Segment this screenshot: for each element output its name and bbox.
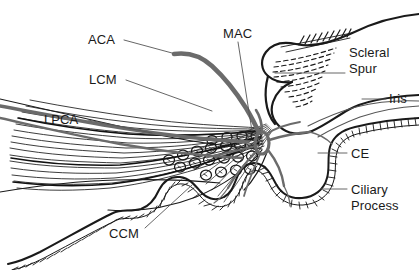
anatomy-figure: ACA LCM LPCA MAC Scleral Spur Iris CE Ci… xyxy=(0,0,419,270)
label-lpca: LPCA xyxy=(44,112,78,127)
label-mac: MAC xyxy=(223,26,252,41)
label-ce: CE xyxy=(351,146,369,161)
label-iris: Iris xyxy=(389,91,407,106)
label-aca: ACA xyxy=(88,32,115,47)
label-ciliary-process-line2: Process xyxy=(351,198,399,213)
label-ciliary-process-line1: Ciliary xyxy=(351,182,388,197)
sclera-outer-wall xyxy=(262,14,419,134)
leader-aca xyxy=(124,40,172,53)
label-scleral-spur-line1: Scleral xyxy=(349,45,389,60)
leader-lcm xyxy=(126,80,212,111)
leader-ccm xyxy=(145,185,192,228)
label-ccm: CCM xyxy=(109,226,139,241)
leader-mac xyxy=(238,42,252,131)
label-lcm: LCM xyxy=(89,72,117,87)
scleral-spur-wedge xyxy=(281,29,352,52)
trabecular-meshwork xyxy=(273,48,336,107)
anatomy-drawing-canvas xyxy=(0,0,419,270)
label-scleral-spur-line2: Spur xyxy=(349,61,377,76)
